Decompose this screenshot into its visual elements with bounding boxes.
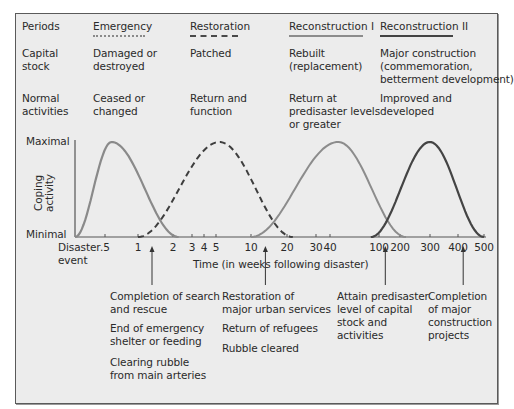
arrow-up-icon — [461, 246, 466, 252]
arrow-up-icon — [150, 246, 155, 252]
arrow-up-icon — [383, 246, 388, 252]
arrow-up-icon — [263, 246, 268, 252]
curve-emergency — [75, 142, 179, 237]
curve-reconstruction-i — [251, 142, 406, 237]
